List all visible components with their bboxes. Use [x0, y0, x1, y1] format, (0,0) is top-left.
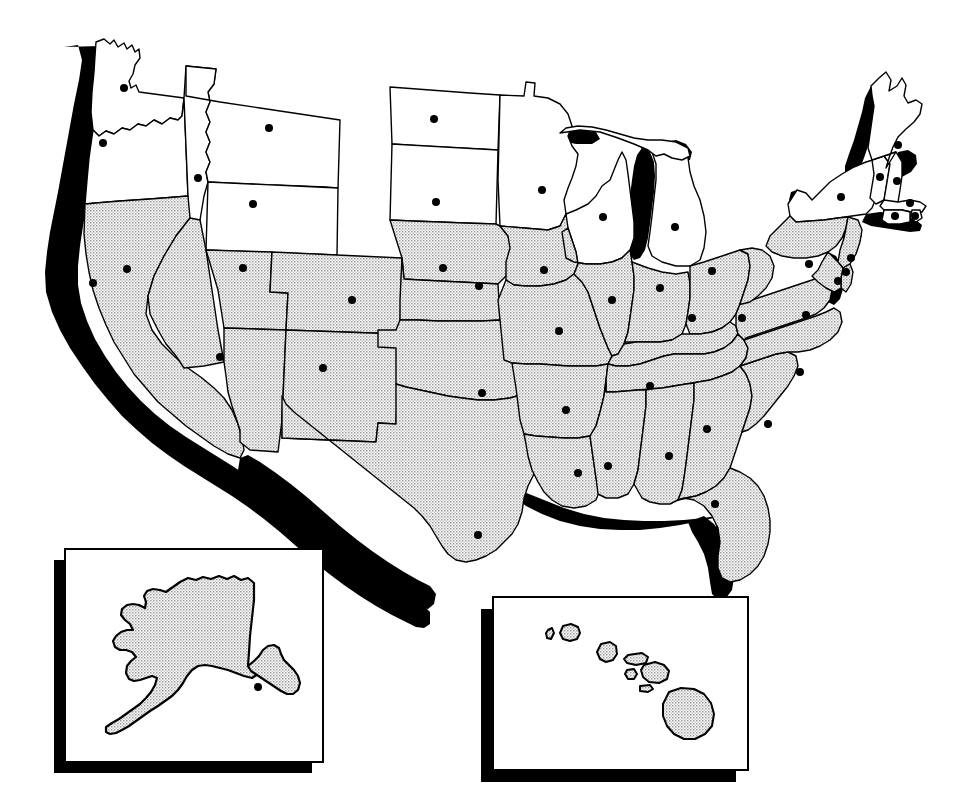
island-lanai	[625, 669, 637, 679]
island-niihau	[546, 628, 554, 639]
hawaii-inset	[0, 0, 971, 811]
us-map-figure	[0, 0, 971, 811]
hawaii-inset-frame	[493, 597, 748, 770]
island-oahu	[597, 642, 617, 662]
island-maui	[641, 662, 669, 683]
island-kahoolawe	[640, 685, 653, 692]
island-kauai	[560, 624, 580, 641]
island-hawaii	[663, 688, 714, 739]
island-molokai	[624, 653, 648, 665]
